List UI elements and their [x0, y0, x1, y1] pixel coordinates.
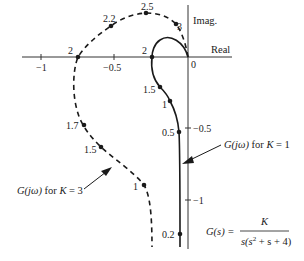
real-tick-label-minus-1: −1 [36, 62, 47, 73]
imag-axis-label: Imag. [193, 15, 217, 26]
annotation-arrows [84, 145, 221, 189]
k1-point-0.2 [178, 232, 183, 237]
k1-label-0.5: 0.5 [162, 127, 175, 138]
real-axis-label: Real [211, 44, 230, 55]
k3-label-2.5: 2.5 [141, 1, 154, 12]
k1-label-2: 2 [142, 45, 147, 56]
origin-label: 0 [191, 59, 196, 70]
curve-k1-solid [152, 38, 188, 247]
k3-label-1: 1 [133, 181, 138, 192]
transfer-function: G(s) = K s(s2 + s + 4) [206, 216, 292, 248]
real-tick-label-minus-0.5: −0.5 [103, 62, 121, 73]
k1-label-1: 1 [162, 99, 167, 110]
k3-point-2 [76, 55, 81, 60]
k3-label-1.7: 1.7 [66, 120, 79, 131]
imag-tick-label-minus-0.5: −0.5 [193, 123, 211, 134]
imag-tick-label-minus-1: −1 [193, 195, 204, 206]
k3-point-2.2 [109, 24, 114, 29]
arrow-k1-line [190, 145, 221, 160]
tf-lhs: G(s) = [206, 226, 234, 238]
tf-numerator: K [260, 216, 269, 227]
nyquist-diagram: Imag. Real 0 −1 −0.5 −0.5 −1 2 1.5 1 0.5… [0, 0, 304, 261]
k1-points [150, 55, 183, 237]
k3-label-1.5: 1.5 [84, 144, 97, 155]
k3-point-1.5 [99, 145, 104, 150]
k3-point-1 [142, 183, 147, 188]
annotation-k1: G(jω) for K = 1 [224, 139, 290, 151]
k3-point-1.7 [82, 123, 87, 128]
k1-point-0.5 [177, 130, 182, 135]
arrow-k3-line [84, 172, 106, 189]
tf-denominator: s(s2 + s + 4) [241, 235, 292, 248]
k3-label-2.2: 2.2 [103, 13, 116, 24]
k1-point-1.5 [158, 85, 163, 90]
k3-label-3: 3 [177, 21, 182, 32]
k1-point-2 [150, 55, 155, 60]
k3-label-2: 2 [68, 45, 73, 56]
k1-label-1.5: 1.5 [143, 84, 156, 95]
annotation-k3: G(jω) for K = 3 [17, 185, 83, 197]
k1-point-1 [168, 99, 173, 104]
k1-label-0.2: 0.2 [162, 229, 175, 240]
